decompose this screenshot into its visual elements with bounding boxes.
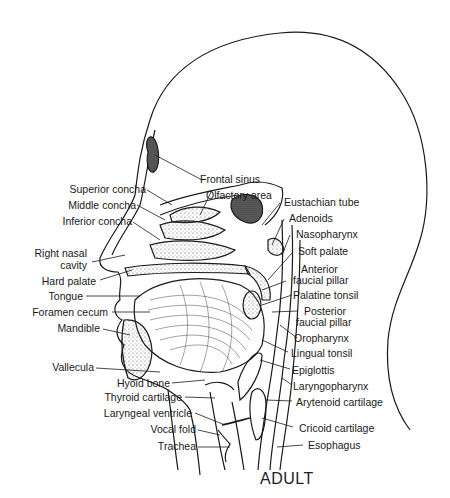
palatine-tonsil [243, 291, 261, 319]
inferior-concha [150, 241, 235, 261]
label-hard-palate: Hard palate [42, 276, 96, 287]
label-mandible: Mandible [57, 323, 100, 334]
middle-concha [160, 221, 225, 240]
superior-concha [170, 207, 220, 223]
label-vallecula: Vallecula [52, 362, 94, 373]
label-thyroid-cartilage: Thyroid cartilage [104, 392, 182, 403]
label-palatine-tonsil: Palatine tonsil [293, 290, 358, 301]
label-laryngeal-ventricle: Laryngeal ventricle [104, 408, 192, 419]
label-middle-concha: Middle concha [68, 200, 136, 211]
label-vocal-fold: Vocal fold [150, 424, 196, 435]
label-oropharynx: Oropharynx [294, 333, 349, 344]
label-esophagus: Esophagus [308, 440, 361, 451]
label-frontal-sinus: Frontal sinus [200, 174, 260, 185]
arytenoid-cartilage [250, 389, 266, 440]
label-epiglottis: Epiglottis [292, 365, 335, 376]
label-anterior-faucial-pillar-line2: faucial pillar [293, 275, 348, 286]
label-posterior-faucial-pillar-line2: faucial pillar [296, 317, 351, 328]
label-hyoid-bone: Hyoid bone [117, 378, 170, 389]
label-olfactory-area: Olfactory area [206, 190, 272, 201]
thyroid-cartilage [210, 392, 225, 470]
label-tongue: Tongue [49, 291, 83, 302]
label-inferior-concha: Inferior concha [63, 216, 132, 227]
hyoid-bone [205, 382, 234, 390]
frontal-sinus [147, 137, 159, 172]
label-right-nasal-cavity-line1: Right nasal [34, 248, 87, 259]
label-foramen-cecum: Foramen cecum [32, 307, 108, 318]
label-eustachian-tube: Eustachian tube [284, 197, 359, 208]
label-cricoid-cartilage: Cricoid cartilage [299, 423, 374, 434]
adenoids [268, 238, 284, 255]
label-adenoids: Adenoids [289, 213, 333, 224]
label-trachea: Trachea [158, 441, 196, 452]
label-laryngopharynx: Laryngopharynx [293, 381, 368, 392]
label-right-nasal-cavity-line2: cavity [60, 260, 87, 271]
label-arytenoid-cartilage: Arytenoid cartilage [296, 397, 383, 408]
label-soft-palate: Soft palate [298, 246, 348, 257]
hard-palate [125, 263, 250, 276]
label-lingual-tonsil: Lingual tonsil [291, 348, 352, 359]
figure-title: ADULT [260, 470, 314, 488]
label-nasopharynx: Nasopharynx [296, 229, 358, 240]
label-superior-concha: Superior concha [70, 184, 146, 195]
